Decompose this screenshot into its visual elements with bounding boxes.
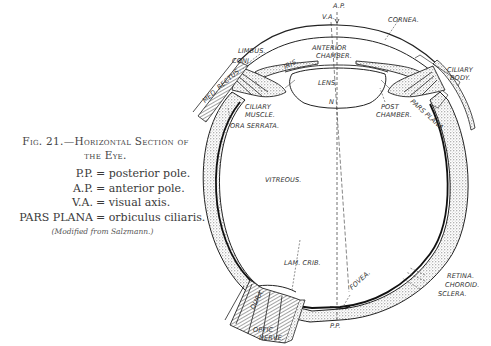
label-conj: CONJ. [232, 57, 251, 65]
label-sclera: SCLERA. [438, 290, 467, 298]
label-anterior-chamber-1: ANTERIOR [311, 44, 347, 52]
label-post-chamber-1: POST [381, 103, 400, 111]
label-ciliary-muscle-1: CILIARY [245, 103, 272, 111]
lens [290, 68, 386, 108]
label-choroid: CHOROID. [445, 281, 479, 289]
label-lens: LENS. [318, 79, 338, 87]
label-optic-nerve-1: OPTIC [253, 326, 274, 334]
label-ora-serrata: ORA SERRATA. [230, 122, 279, 130]
label-ciliary-body-1: CILIARY [447, 66, 474, 74]
visual-axis [331, 22, 349, 292]
label-retina: RETINA. [447, 272, 474, 280]
label-post-chamber-2: CHAMBER. [376, 111, 412, 119]
label-va: V.A. [322, 13, 335, 21]
label-vitreous: VITREOUS. [265, 176, 301, 184]
label-limbus: LIMBUS. [238, 47, 266, 55]
label-ciliary-muscle-2: MUSCLE. [245, 111, 275, 119]
label-n: N [329, 98, 334, 106]
label-fovea: FOVEA. [348, 269, 372, 292]
label-lam-crib: LAM. CRIB. [284, 259, 321, 267]
label-cornea: CORNEA. [388, 16, 419, 24]
leader-lines [228, 18, 425, 305]
label-optic-nerve-2: NERVE. [259, 334, 284, 342]
label-ap: A.P. [332, 2, 345, 10]
label-anterior-chamber-2: CHAMBER. [316, 52, 352, 60]
label-pp: P.P. [330, 322, 341, 330]
eye-section-diagram: A.P. V.A. CORNEA. LIMBUS. CONJ. ANTERIOR… [0, 0, 491, 346]
label-ciliary-body-2: BODY. [450, 74, 471, 82]
